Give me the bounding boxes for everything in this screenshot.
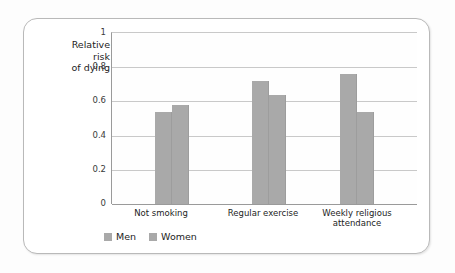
- ytick-label-0-6: 0.6: [66, 95, 106, 105]
- gridline-0-8: [112, 67, 417, 68]
- legend-label-men: Men: [116, 231, 136, 242]
- axis-baseline: [112, 204, 417, 205]
- ytick-label-0-2: 0.2: [66, 164, 106, 174]
- ytick-label-0: 0: [66, 198, 106, 208]
- category-label-weekly-religious-attendance: Weekly religious attendance: [311, 208, 403, 228]
- legend-swatch-women-icon: [149, 233, 157, 241]
- legend-swatch-men-icon: [104, 233, 112, 241]
- ytick-label-0-4: 0.4: [66, 130, 106, 140]
- bar-women-weekly-religious-attendance: [357, 112, 374, 204]
- bar-men-not-smoking: [155, 112, 172, 204]
- category-label-regular-exercise: Regular exercise: [218, 208, 308, 218]
- bar-men-weekly-religious-attendance: [340, 74, 357, 204]
- figure-card: Relative risk of dying 1 0.8 0.6 0.4 0.2…: [23, 18, 430, 254]
- chart-legend: Men Women: [104, 231, 197, 242]
- bar-women-not-smoking: [172, 105, 189, 204]
- bar-women-regular-exercise: [269, 95, 286, 204]
- page-background: Relative risk of dying 1 0.8 0.6 0.4 0.2…: [0, 0, 455, 273]
- ytick-label-1: 1: [66, 27, 106, 37]
- ytick-label-0-8: 0.8: [66, 61, 106, 71]
- legend-label-women: Women: [161, 231, 197, 242]
- plot-area: [111, 32, 417, 204]
- legend-item-men: Men: [104, 231, 136, 242]
- category-label-not-smoking: Not smoking: [121, 208, 201, 218]
- legend-item-women: Women: [149, 231, 197, 242]
- bar-men-regular-exercise: [252, 81, 269, 204]
